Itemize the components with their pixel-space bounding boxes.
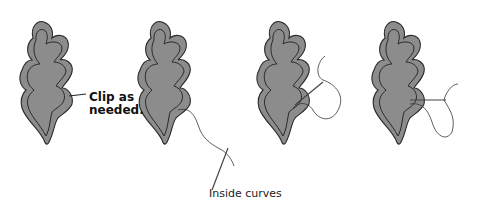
needle-icon — [212, 148, 228, 190]
step-2-leaf — [138, 22, 234, 190]
appliqué-diagram — [0, 0, 477, 207]
clip-label: Clip as needed. — [89, 91, 141, 117]
thread-icon — [178, 109, 234, 166]
step-1-leaf — [20, 22, 86, 145]
inside-curves-label: Inside curves — [209, 187, 282, 200]
step-4-leaf — [372, 22, 458, 145]
step-3-leaf — [257, 22, 341, 145]
